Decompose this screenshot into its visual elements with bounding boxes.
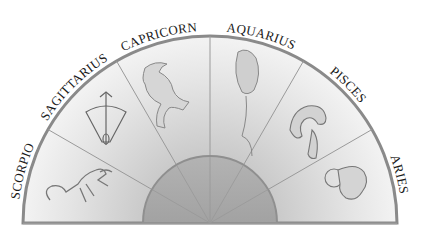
zodiac-diagram: SCORPIO SAGITTARIUS CAPRICORN AQUARIUS P… [0,0,421,234]
